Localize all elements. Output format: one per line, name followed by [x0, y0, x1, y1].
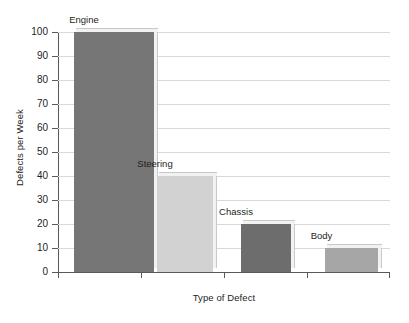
y-tick-label-80: 80	[8, 75, 48, 85]
y-tick-label-0: 0	[8, 267, 48, 277]
x-tick-mark-2	[224, 273, 225, 278]
defects-bar-chart: Defects per Week 100 90 80 70 60 50 40 3…	[0, 0, 409, 323]
x-tick-mark-3	[307, 273, 308, 278]
bar-label-body: Body	[295, 230, 348, 241]
bar-steering-highlight-side	[213, 172, 217, 268]
x-tick-mark-start	[58, 273, 59, 278]
y-tick-label-20: 20	[8, 219, 48, 229]
y-tick-label-60: 60	[8, 123, 48, 133]
bar-steering-highlight-top	[159, 172, 217, 176]
y-tick-label-40: 40	[8, 171, 48, 181]
y-tick-label-30: 30	[8, 195, 48, 205]
bar-engine[interactable]	[74, 32, 154, 272]
bar-chassis-highlight-top	[243, 220, 295, 224]
x-axis-title: Type of Defect	[58, 292, 390, 303]
x-tick-mark-1	[141, 273, 142, 278]
bar-body[interactable]	[325, 248, 378, 272]
bar-engine-highlight-top	[76, 28, 158, 32]
bar-chassis-highlight-side	[291, 220, 295, 268]
bar-label-chassis: Chassis	[211, 206, 261, 217]
y-tick-label-10: 10	[8, 243, 48, 253]
bar-label-steering: Steering	[127, 158, 183, 169]
y-tick-label-100: 100	[8, 27, 48, 37]
bar-label-engine: Engine	[44, 14, 124, 25]
bar-steering[interactable]	[157, 176, 213, 272]
bar-body-highlight-top	[327, 244, 382, 248]
x-tick-mark-end	[389, 273, 390, 278]
y-tick-label-70: 70	[8, 99, 48, 109]
bar-chassis[interactable]	[241, 224, 291, 272]
y-tick-label-50: 50	[8, 147, 48, 157]
y-tick-label-90: 90	[8, 51, 48, 61]
